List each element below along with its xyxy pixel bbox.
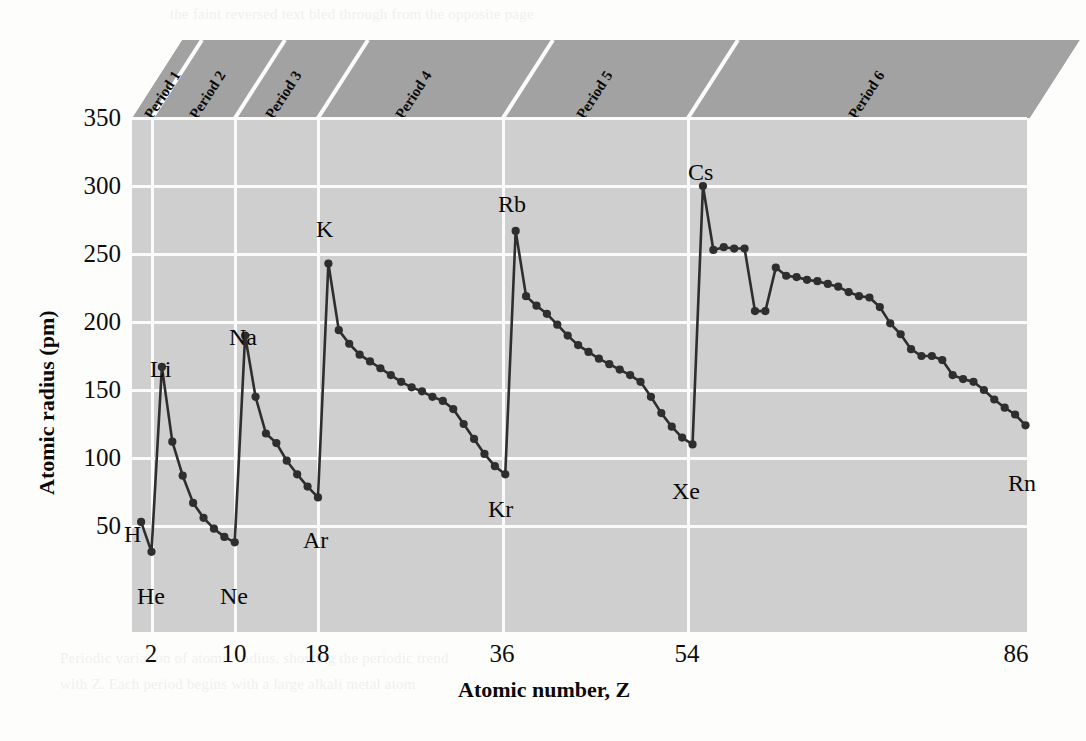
data-point-marker: [803, 276, 811, 284]
data-point-marker: [460, 420, 468, 428]
xtick-label-54: 54: [657, 640, 717, 668]
data-point-marker: [824, 280, 832, 288]
data-point-marker: [928, 352, 936, 360]
point-label-Rn: Rn: [1008, 470, 1036, 497]
data-point-marker: [782, 272, 790, 280]
data-point-marker: [595, 355, 603, 363]
data-point-marker: [199, 514, 207, 522]
atomic-radius-chart-figure: the faint reversed text bled through fro…: [0, 0, 1086, 741]
data-point-marker: [657, 409, 665, 417]
point-label-Li: Li: [150, 356, 171, 383]
data-point-marker: [730, 244, 738, 252]
data-point-marker: [959, 375, 967, 383]
data-point-marker: [522, 292, 530, 300]
data-point-marker: [751, 307, 759, 315]
data-point-marker: [845, 288, 853, 296]
point-label-Ar: Ar: [303, 527, 328, 554]
data-point-marker: [574, 341, 582, 349]
data-point-marker: [917, 352, 925, 360]
data-point-marker: [439, 397, 447, 405]
data-point-marker: [897, 330, 905, 338]
data-point-marker: [668, 423, 676, 431]
point-label-Xe: Xe: [672, 478, 700, 505]
data-point-marker: [397, 378, 405, 386]
data-point-marker: [210, 525, 218, 533]
point-label-Kr: Kr: [488, 496, 513, 523]
xtick-label-86: 86: [986, 640, 1046, 668]
ytick-label-300: 300: [55, 172, 121, 200]
xtick-label-36: 36: [472, 640, 532, 668]
data-point-marker: [324, 259, 332, 267]
point-label-K: K: [316, 216, 333, 243]
data-point-marker: [678, 434, 686, 442]
data-point-marker: [168, 438, 176, 446]
ytick-label-50: 50: [55, 512, 121, 540]
point-label-He: He: [137, 583, 165, 610]
data-point-marker: [303, 482, 311, 490]
data-point-marker: [501, 470, 509, 478]
data-point-marker: [907, 345, 915, 353]
data-point-marker: [876, 303, 884, 311]
data-point-marker: [740, 244, 748, 252]
data-point-marker: [335, 326, 343, 334]
data-point-marker: [793, 273, 801, 281]
data-point-marker: [251, 393, 259, 401]
data-point-marker: [147, 548, 155, 556]
data-point-marker: [616, 366, 624, 374]
point-label-H: H: [124, 521, 141, 548]
data-point-marker: [834, 283, 842, 291]
data-point-marker: [512, 227, 520, 235]
x-axis-title: Atomic number, Z: [458, 677, 630, 703]
data-point-marker: [990, 395, 998, 403]
data-point-marker: [283, 457, 291, 465]
data-point-marker: [428, 393, 436, 401]
data-point-marker: [293, 470, 301, 478]
data-point-marker: [314, 493, 322, 501]
data-point-marker: [886, 319, 894, 327]
data-point-marker: [772, 264, 780, 272]
data-point-marker: [418, 387, 426, 395]
data-point-marker: [980, 386, 988, 394]
data-point-marker: [605, 360, 613, 368]
data-point-marker: [709, 246, 717, 254]
data-point-marker: [345, 340, 353, 348]
y-axis-title: Atomic radius (pm): [34, 310, 60, 495]
xtick-label-2: 2: [121, 640, 181, 668]
data-point-marker: [647, 393, 655, 401]
data-point-marker: [376, 364, 384, 372]
data-point-marker: [564, 332, 572, 340]
data-point-marker: [179, 472, 187, 480]
series-line: [141, 186, 1025, 552]
ytick-label-250: 250: [55, 240, 121, 268]
data-point-marker: [532, 302, 540, 310]
data-point-marker: [626, 371, 634, 379]
data-point-marker: [480, 450, 488, 458]
data-point-marker: [688, 440, 696, 448]
data-point-marker: [1021, 421, 1029, 429]
data-point-marker: [865, 293, 873, 301]
data-point-marker: [366, 357, 374, 365]
data-point-marker: [855, 292, 863, 300]
data-point-marker: [231, 538, 239, 546]
data-point-marker: [813, 277, 821, 285]
ytick-label-100: 100: [55, 444, 121, 472]
ytick-label-350: 350: [55, 104, 121, 132]
data-point-marker: [543, 310, 551, 318]
data-point-marker: [272, 439, 280, 447]
ytick-label-200: 200: [55, 308, 121, 336]
data-point-marker: [1001, 404, 1009, 412]
data-point-marker: [761, 307, 769, 315]
data-point-marker: [262, 429, 270, 437]
data-point-marker: [1011, 410, 1019, 418]
data-point-marker: [938, 356, 946, 364]
data-point-marker: [356, 351, 364, 359]
data-point-marker: [449, 405, 457, 413]
data-point-marker: [553, 321, 561, 329]
data-point-marker: [720, 243, 728, 251]
data-point-marker: [584, 348, 592, 356]
point-label-Cs: Cs: [688, 159, 713, 186]
data-point-marker: [491, 462, 499, 470]
data-point-marker: [969, 378, 977, 386]
data-point-marker: [470, 435, 478, 443]
ytick-label-150: 150: [55, 376, 121, 404]
